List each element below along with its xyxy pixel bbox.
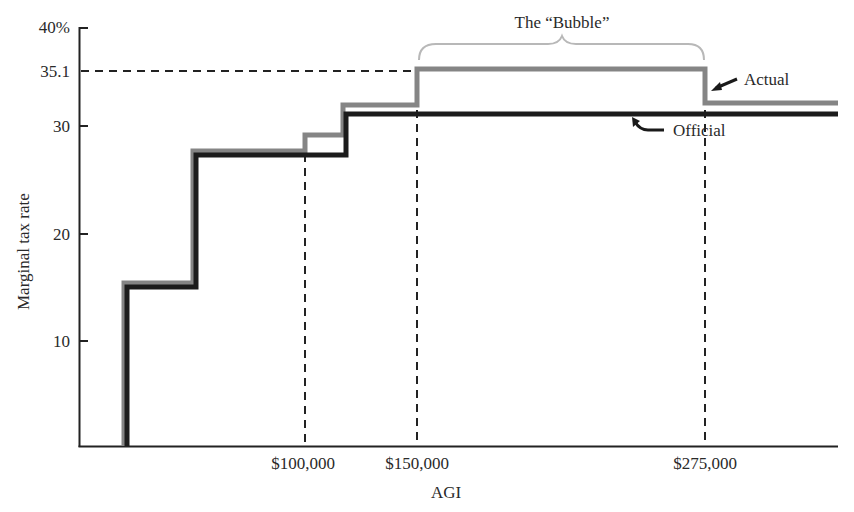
- actual-arrow-icon: [711, 79, 737, 91]
- x-tick-275000: $275,000: [673, 455, 737, 472]
- y-tick-20: 20: [0, 226, 70, 243]
- reference-lines: [81, 71, 705, 446]
- y-tick-35-1: 35.1: [0, 63, 70, 80]
- actual-label: Actual: [744, 71, 789, 88]
- x-tick-100000: $100,000: [271, 455, 335, 472]
- series-actual: [124, 69, 838, 446]
- y-axis-label: Marginal tax rate: [15, 193, 32, 310]
- official-arrow-icon: [632, 117, 664, 130]
- series-official: [127, 114, 838, 446]
- bubble-brace: [419, 36, 704, 60]
- chart-canvas: [0, 0, 854, 512]
- y-tick-30: 30: [0, 118, 70, 135]
- x-tick-150000: $150,000: [385, 455, 449, 472]
- x-axis-label: AGI: [431, 484, 461, 501]
- bubble-label: The “Bubble”: [515, 14, 610, 31]
- y-tick-10: 10: [0, 333, 70, 350]
- official-label: Official: [673, 122, 726, 139]
- y-tick-40: 40%: [0, 19, 70, 36]
